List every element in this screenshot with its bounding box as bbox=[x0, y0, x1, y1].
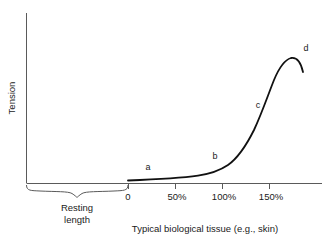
x-tick-label-150: 150% bbox=[259, 191, 284, 202]
x-axis-title: Typical biological tissue (e.g., skin) bbox=[132, 223, 278, 234]
annotation-label-d: d bbox=[303, 43, 308, 53]
x-tick-label-0: 0 bbox=[125, 191, 130, 202]
annotation-label-c: c bbox=[256, 100, 261, 110]
x-tick-label-50: 50% bbox=[167, 191, 187, 202]
resting-length-label-line2: length bbox=[64, 214, 90, 225]
chart-figure: Tension 0 50% 100% 150% Typical biologic… bbox=[0, 0, 325, 240]
resting-length-label-line1: Resting bbox=[61, 202, 93, 213]
y-axis-title: Tension bbox=[6, 82, 17, 115]
tension-extension-plot: Tension 0 50% 100% 150% Typical biologic… bbox=[0, 0, 325, 240]
resting-length-brace bbox=[27, 185, 129, 198]
annotation-label-a: a bbox=[145, 162, 150, 172]
x-tick-label-100: 100% bbox=[212, 191, 237, 202]
tension-curve bbox=[128, 58, 303, 181]
annotation-label-b: b bbox=[212, 151, 217, 161]
